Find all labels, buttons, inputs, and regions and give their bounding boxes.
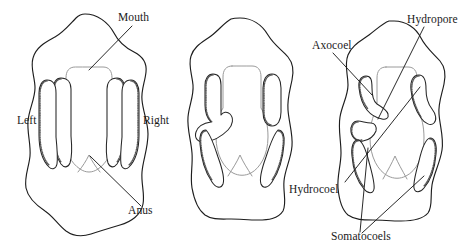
- label-right: Right: [143, 114, 169, 126]
- coelom-right-outer: [121, 80, 139, 169]
- label-left: Left: [17, 114, 37, 126]
- label-mouth: Mouth: [118, 11, 149, 23]
- label-hydropore: Hydropore: [407, 13, 458, 25]
- label-axocoel: Axocoel: [312, 39, 352, 51]
- label-hydrocoel: Hydrocoel: [289, 183, 338, 195]
- panel-middle: [188, 18, 293, 220]
- figure-container: Mouth Left Right Anus Axocoel Hydropore …: [0, 0, 467, 251]
- label-somatocoels: Somatocoels: [331, 230, 391, 242]
- coelom-left-outer: [39, 80, 57, 169]
- diagram-canvas: [0, 0, 467, 251]
- label-anus: Anus: [128, 204, 153, 216]
- panel-left: [26, 14, 148, 236]
- panel-right: [333, 21, 445, 233]
